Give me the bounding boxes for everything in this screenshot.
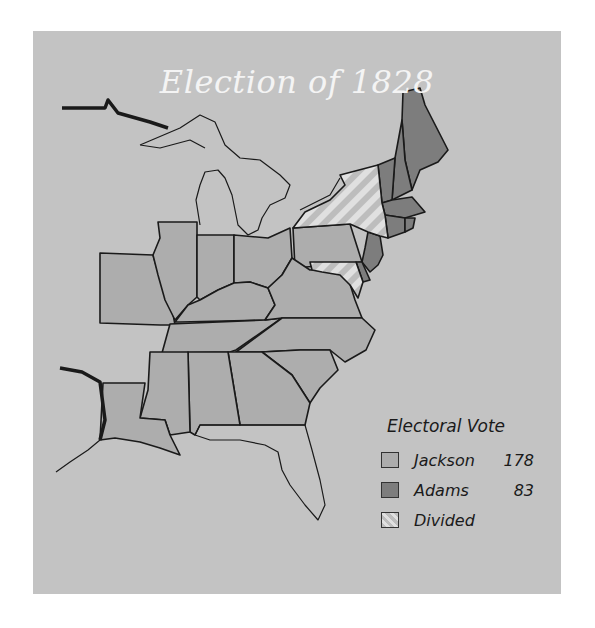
gulf-coast-texas xyxy=(56,440,100,472)
divided-swatch-icon xyxy=(381,512,399,528)
legend-title: Electoral Vote xyxy=(387,416,541,436)
legend-item-adams: Adams 83 xyxy=(381,476,541,504)
legend-label: Jackson xyxy=(414,451,484,470)
legend-value: 178 xyxy=(484,451,534,470)
florida-territory xyxy=(195,425,325,520)
international-border xyxy=(62,100,168,128)
legend-item-jackson: Jackson 178 xyxy=(381,446,541,474)
legend-item-divided: Divided xyxy=(381,506,541,534)
mexico-border xyxy=(60,368,105,440)
jackson-swatch-icon xyxy=(381,452,399,468)
legend-value: 83 xyxy=(484,481,534,500)
legend-label: Divided xyxy=(414,511,484,530)
legend-label: Adams xyxy=(414,481,484,500)
state-rhode-island xyxy=(405,218,415,232)
adams-swatch-icon xyxy=(381,482,399,498)
legend: Electoral Vote Jackson 178 Adams 83 Divi… xyxy=(381,416,541,536)
map-title: Election of 1828 xyxy=(33,63,561,101)
state-new-jersey xyxy=(362,232,383,272)
map-panel: Election of 1828 Electoral Vote Jackson … xyxy=(33,31,561,594)
